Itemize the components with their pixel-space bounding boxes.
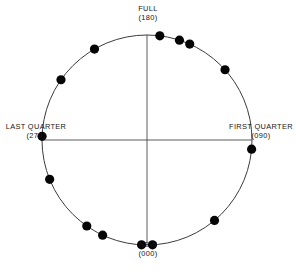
axes-group [42, 35, 252, 245]
axis-label-last-quarter-name: LAST QUARTER [2, 122, 70, 131]
axis-label-first-quarter: FIRST QUARTER (090) [228, 122, 294, 140]
axis-label-last-quarter-angle: (270) [2, 131, 70, 140]
axis-label-full-name: FULL [0, 4, 296, 13]
axis-label-full: FULL (180) [0, 4, 296, 22]
data-point [56, 75, 65, 84]
data-point [98, 231, 107, 240]
data-point [82, 221, 91, 230]
axis-label-full-angle: (180) [0, 13, 296, 22]
axis-label-first-quarter-angle: (090) [228, 131, 294, 140]
data-point [247, 145, 256, 154]
axis-label-last-quarter: LAST QUARTER (270) [2, 122, 70, 140]
data-point [185, 39, 194, 48]
data-point [155, 31, 164, 40]
axis-label-new: NEW (000) [0, 240, 296, 258]
data-point [45, 175, 54, 184]
axis-label-first-quarter-name: FIRST QUARTER [228, 122, 294, 131]
axis-label-new-name: NEW [0, 240, 296, 249]
data-point [175, 36, 184, 45]
lunar-phase-circular-plot: FULL (180) NEW (000) LAST QUARTER (270) … [0, 0, 296, 278]
axis-label-new-angle: (000) [0, 249, 296, 258]
data-point [90, 44, 99, 53]
data-point [210, 216, 219, 225]
data-point [220, 65, 229, 74]
